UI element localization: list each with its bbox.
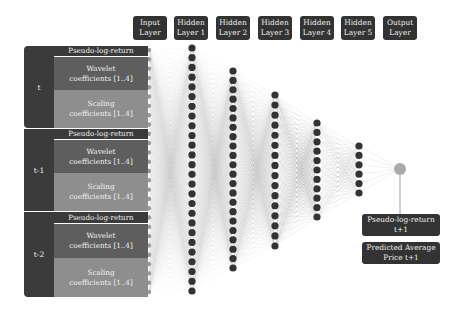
- neuron-node: [313, 138, 320, 145]
- neuron-node: [188, 229, 195, 236]
- group-label: t: [37, 83, 40, 92]
- neuron-node: [271, 91, 278, 98]
- input-wavelet-coefficients: Wavelet coefficients [1..4]: [54, 140, 148, 173]
- neuron-node: [271, 162, 278, 169]
- header-hidden-layer-4: Hidden Layer 4: [300, 16, 334, 40]
- neuron-node: [229, 171, 236, 178]
- neuron-node: [271, 101, 278, 108]
- neuron-node: [188, 239, 195, 246]
- neuron-node: [229, 189, 236, 196]
- input-group-t-1: t-1: [24, 129, 54, 211]
- header-hidden-layer-1: Hidden Layer 1: [174, 16, 208, 40]
- neuron-node: [188, 249, 195, 256]
- row-label: coefficients [1..4]: [69, 157, 132, 167]
- neuron-node: [229, 77, 236, 84]
- input-wavelet-coefficients: Wavelet coefficients [1..4]: [54, 224, 148, 258]
- neuron-node: [355, 152, 362, 159]
- input-wavelet-coefficients: Wavelet coefficients [1..4]: [54, 57, 148, 90]
- neuron-node: [188, 268, 195, 275]
- row-label: Pseudo-log-return: [68, 213, 134, 223]
- header-line: Layer: [133, 28, 167, 38]
- row-label: coefficients [1..4]: [69, 192, 132, 202]
- neuron-node: [188, 171, 195, 178]
- neuron-node: [229, 67, 236, 74]
- neuron-node: [188, 93, 195, 100]
- row-label: coefficients [1..4]: [69, 278, 132, 288]
- neuron-node: [229, 114, 236, 121]
- header-line: Hidden: [300, 18, 334, 28]
- neuron-node: [188, 278, 195, 285]
- neuron-node: [229, 96, 236, 103]
- input-group-t-2: t-2: [24, 212, 54, 297]
- neuron-node: [313, 129, 320, 136]
- neuron-node: [229, 264, 236, 271]
- neuron-node: [188, 180, 195, 187]
- neuron-node: [313, 204, 320, 211]
- output-label: Pseudo-log-return: [362, 215, 440, 225]
- header-line: Layer 4: [300, 28, 334, 38]
- neuron-node: [229, 227, 236, 234]
- group-label: t-1: [34, 166, 44, 175]
- neuron-node: [188, 200, 195, 207]
- row-label: Wavelet: [87, 231, 116, 241]
- neuron-node: [229, 208, 236, 215]
- neuron-node: [271, 192, 278, 199]
- neuron-node: [188, 219, 195, 226]
- neuron-node: [355, 189, 362, 196]
- neuron-node: [229, 199, 236, 206]
- neuron-node: [271, 132, 278, 139]
- neuron-node: [229, 255, 236, 262]
- input-scaling-coefficients: Scaling coefficients [1..4]: [54, 90, 148, 128]
- neuron-node: [188, 122, 195, 129]
- neuron-node: [229, 217, 236, 224]
- header-line: Layer: [383, 28, 417, 38]
- neuron-node: [271, 152, 278, 159]
- neuron-node: [188, 112, 195, 119]
- output-label: t+1: [362, 225, 440, 235]
- neuron-node: [188, 74, 195, 81]
- row-label: Scaling: [87, 182, 114, 192]
- neuron-node: [188, 142, 195, 149]
- neuron-node: [229, 161, 236, 168]
- neuron-node: [188, 132, 195, 139]
- neuron-node: [313, 148, 320, 155]
- neuron-node: [271, 112, 278, 119]
- row-label: Scaling: [87, 99, 114, 109]
- neuron-node: [271, 202, 278, 209]
- header-line: Hidden: [258, 18, 292, 28]
- header-line: Hidden: [341, 18, 375, 28]
- neuron-node: [188, 161, 195, 168]
- neuron-node: [355, 171, 362, 178]
- neuron-node: [229, 236, 236, 243]
- neuron-node: [271, 172, 278, 179]
- input-pseudo-log-return: Pseudo-log-return: [54, 129, 148, 139]
- output-pseudo-log-return: Pseudo-log-return t+1: [362, 214, 440, 236]
- header-line: Layer 1: [174, 28, 208, 38]
- neuron-node: [188, 64, 195, 71]
- neuron-node: [313, 176, 320, 183]
- neuron-node: [188, 103, 195, 110]
- neuron-node: [188, 190, 195, 197]
- neuron-node: [355, 180, 362, 187]
- neuron-node: [313, 185, 320, 192]
- neuron-node: [313, 166, 320, 173]
- row-label: Wavelet: [87, 147, 116, 157]
- neuron-node: [188, 210, 195, 217]
- neuron-node: [271, 212, 278, 219]
- header-line: Output: [383, 18, 417, 28]
- neuron-node: [229, 133, 236, 140]
- header-line: Layer 2: [216, 28, 250, 38]
- header-output-layer: Output Layer: [383, 16, 417, 40]
- neuron-node: [271, 122, 278, 129]
- neuron-node: [355, 161, 362, 168]
- neuron-node: [229, 105, 236, 112]
- header-line: Hidden: [174, 18, 208, 28]
- output-label: Price t+1: [362, 253, 440, 263]
- input-pseudo-log-return: Pseudo-log-return: [54, 212, 148, 223]
- row-label: coefficients [1..4]: [69, 74, 132, 84]
- neuron-node: [313, 119, 320, 126]
- input-scaling-coefficients: Scaling coefficients [1..4]: [54, 173, 148, 211]
- neuron-node: [313, 157, 320, 164]
- header-line: Input: [133, 18, 167, 28]
- row-label: Wavelet: [87, 64, 116, 74]
